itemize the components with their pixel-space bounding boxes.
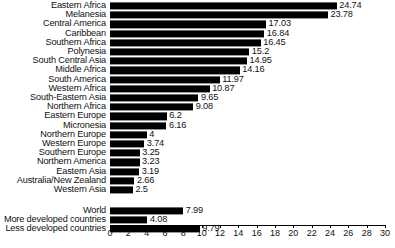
bar-value-label: 2.5 [135, 185, 147, 194]
x-axis-tick-label: 20 [288, 229, 298, 238]
bar-value-label: 9.08 [196, 103, 213, 112]
x-axis-tick-label: 22 [307, 229, 317, 238]
bar [110, 76, 220, 83]
chart-row: Central America17.03 [0, 20, 395, 29]
bar [110, 168, 139, 175]
bar [110, 3, 337, 10]
bar [110, 12, 328, 19]
bar [110, 21, 266, 28]
bar [110, 85, 210, 92]
bar-value-label: 7.99 [186, 206, 203, 215]
chart-row: Eastern Europe6.2 [0, 112, 395, 121]
bar [110, 150, 140, 157]
x-axis-tick-label: 2 [126, 229, 131, 238]
bar [110, 226, 200, 233]
x-axis-tick-label: 8 [181, 229, 186, 238]
x-axis-tick-label: 24 [325, 229, 335, 238]
bar [110, 131, 147, 138]
bar [110, 122, 166, 129]
bar [110, 216, 147, 223]
bar [110, 207, 183, 214]
bar [110, 49, 249, 56]
bar [110, 113, 167, 120]
bar [110, 187, 133, 194]
x-axis-tick-label: 26 [343, 229, 353, 238]
bar-chart: Eastern Africa24.74Melanesia23.78Central… [0, 0, 395, 248]
chart-row: Western Asia2.5 [0, 186, 395, 195]
bar [110, 58, 247, 65]
bar [110, 95, 198, 102]
x-axis-tick-label: 14 [233, 229, 243, 238]
x-axis-tick-label: 10 [197, 229, 207, 238]
x-axis-tick-label: 18 [270, 229, 280, 238]
x-axis-tick-label: 6 [162, 229, 167, 238]
x-axis: 024681012141618202224262830 [110, 225, 385, 226]
bar [110, 67, 240, 74]
x-axis-tick-label: 30 [380, 229, 390, 238]
bar-value-label: 14.16 [242, 66, 264, 75]
x-axis-tick-label: 4 [144, 229, 149, 238]
category-label: Less developed countries [5, 225, 106, 234]
bar [110, 104, 193, 111]
bar [110, 159, 140, 166]
bar [110, 141, 144, 148]
bar [110, 177, 134, 184]
chart-row: Southern Africa16.45 [0, 38, 395, 47]
bar-value-label: 6.16 [169, 121, 186, 130]
x-axis-tick-label: 12 [215, 229, 225, 238]
x-axis-tick-label: 0 [107, 229, 112, 238]
bar-value-label: 23.78 [330, 11, 352, 20]
category-label: Western Asia [54, 185, 106, 194]
bar [110, 30, 264, 37]
bar-value-label: 4.08 [150, 215, 167, 224]
x-axis-tick-label: 16 [252, 229, 262, 238]
bar [110, 39, 261, 46]
x-axis-tick-label: 28 [362, 229, 372, 238]
